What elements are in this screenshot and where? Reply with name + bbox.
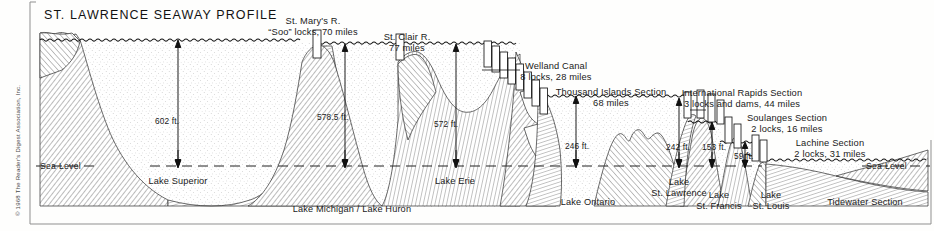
lake-label-st-francis-line2: St. Francis [696, 201, 742, 212]
seaway-profile-figure: ST. LAWRENCE SEAWAY PROFILE St. Mary's R… [0, 0, 934, 231]
lake-label-superior: Lake Superior [148, 176, 207, 187]
section-label-lachine-line2: 2 locks, 31 miles [794, 149, 865, 160]
page-title: ST. LAWRENCE SEAWAY PROFILE [44, 8, 277, 23]
copyright-notice: © 1968 The Reader's Digest Association, … [14, 85, 21, 216]
lock-welland-7 [532, 80, 540, 106]
section-label-international-rapids-line2: 3 locks and dams, 44 miles [684, 99, 800, 110]
section-label-soulanges-line2: 2 locks, 16 miles [751, 124, 822, 135]
lock-welland-8 [540, 88, 548, 114]
sea-level-label-right: Sea Level [866, 161, 907, 171]
sea-level-label-left: Sea Level [40, 161, 81, 171]
section-label-international-rapids-line1: International Rapids Section [682, 88, 802, 99]
lock-lachine-2 [760, 140, 767, 162]
section-label-st-clair-line1: St. Clair R. [384, 32, 431, 43]
elevation-value-572: 572 ft. [434, 120, 458, 130]
lake-label-tidewater: Tidewater Section [827, 197, 903, 208]
section-label-st-marys-line1: St. Mary's R. [286, 16, 341, 27]
elevation-value-578-5: 578.5 ft. [317, 113, 348, 123]
lake-label-erie: Lake Erie [435, 176, 475, 187]
elevation-value-246: 246 ft. [565, 142, 589, 152]
elevation-value-59: 59 ft. [734, 152, 753, 162]
lake-label-st-louis-line2: St. Louis [752, 201, 789, 212]
section-label-st-marys-line2: “Soo” locks, 70 miles [268, 27, 357, 38]
elevation-value-242: 242 ft. [666, 143, 690, 153]
lock-welland-1 [484, 41, 492, 67]
lock-soulanges-2 [734, 124, 741, 148]
lake-label-ontario: Lake Ontario [561, 197, 615, 208]
lock-soulanges-1 [725, 117, 732, 143]
elevation-value-153: 153 ft. [702, 143, 726, 153]
section-label-welland-line1: Welland Canal [525, 61, 587, 72]
lake-label-st-lawrence-line2: St. Lawrence [651, 188, 706, 199]
elevation-value-602: 602 ft. [155, 117, 179, 127]
lake-label-st-francis-line1: Lake [709, 190, 730, 201]
section-label-thousand-islands-line2: 68 miles [593, 98, 629, 109]
section-label-soulanges-line1: Soulanges Section [747, 113, 827, 124]
lock-welland-2 [492, 46, 500, 72]
lake-label-st-louis-line1: Lake [761, 190, 782, 201]
section-label-thousand-islands-line1: Thousand Islands Section [556, 87, 667, 98]
section-label-st-clair-line2: 77 miles [389, 43, 425, 54]
section-label-welland-line2: 8 locks, 28 miles [520, 72, 591, 83]
section-label-lachine-line1: Lachine Section [796, 138, 864, 149]
lake-label-st-lawrence-line1: Lake [669, 177, 690, 188]
lock-welland-4 [508, 58, 516, 84]
lock-welland-3 [500, 52, 508, 78]
lake-label-michigan-huron: Lake Michigan / Lake Huron [293, 204, 411, 215]
